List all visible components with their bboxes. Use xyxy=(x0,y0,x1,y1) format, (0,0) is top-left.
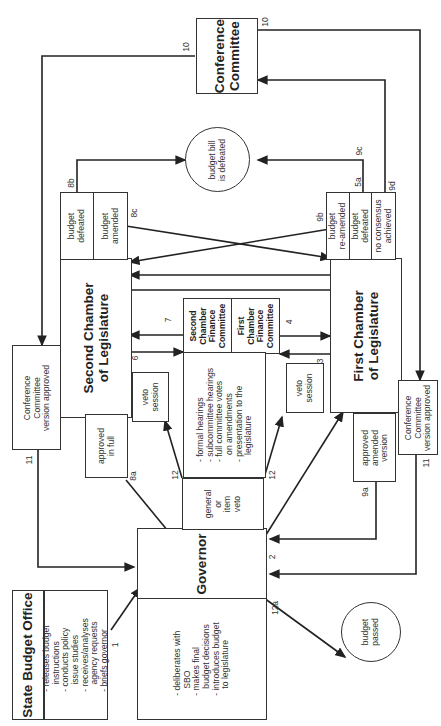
bill-defeated-circle: budget bill is defeated xyxy=(185,127,250,192)
first-budget-reamended-box: budget re-amended xyxy=(326,192,350,260)
state-budget-office-tasks-box: - releases budget instructions - conduct… xyxy=(44,590,108,720)
state-budget-office-title: State Budget Office xyxy=(20,592,35,717)
edge-label-4: 4 xyxy=(284,320,294,325)
second-budget-amended-box: budget amended xyxy=(93,192,128,260)
edge-label-2: 2 xyxy=(267,555,277,560)
first-conference-approved-label: Conference Committee version approved xyxy=(404,385,433,451)
conference-committee-box: Conference Committee xyxy=(196,18,258,94)
governor-tasks: - deliberates with SBO - makes final bud… xyxy=(173,622,231,696)
edge-label-5a: 5a xyxy=(353,177,363,186)
second-finance-committee-box: Second Chamber Finance Committee xyxy=(183,298,232,354)
first-chamber-box: First Chamber of Legislature xyxy=(330,258,402,413)
first-no-consensus-box: no consensus achieved xyxy=(371,192,396,260)
edge-label-9c: 9c xyxy=(354,147,364,156)
second-conference-approved-box: Conference Committee version approved xyxy=(12,345,61,450)
budget-passed-label: budget passed xyxy=(361,618,380,646)
edge-label-1: 1 xyxy=(110,643,120,648)
first-no-consensus-label: no consensus achieved xyxy=(374,199,393,252)
approved-amended-label: approved amended version xyxy=(360,430,389,466)
edge-label-11-first: 11 xyxy=(421,459,431,468)
veto-type-box: general or item veto xyxy=(182,478,264,530)
first-budget-defeated-box: budget defeated xyxy=(349,192,372,260)
governor-title-box: Governor xyxy=(137,528,267,600)
approved-amended-box: approved amended version xyxy=(353,413,396,482)
first-budget-defeated-label: budget defeated xyxy=(351,209,370,242)
edge-label-9a: 9a xyxy=(360,487,370,496)
approved-in-full-box: approved in full xyxy=(85,414,128,478)
committee-tasks-label: - formal hearings - subcommittee hearing… xyxy=(196,368,254,462)
first-veto-session-label: veto session xyxy=(295,373,314,402)
first-budget-reamended-label: budget re-amended xyxy=(328,203,347,249)
edge-label-10-second: 10 xyxy=(181,42,191,51)
edge-label-3: 3 xyxy=(315,359,325,364)
edge-label-6: 6 xyxy=(130,356,140,361)
second-veto-session-label: veto session xyxy=(141,382,160,411)
budget-passed-circle: budget passed xyxy=(341,602,401,662)
governor-tasks-box: - deliberates with SBO - makes final bud… xyxy=(137,598,267,720)
edge-label-12-first: 12 xyxy=(267,470,277,479)
committee-tasks-box: - formal hearings - subcommittee hearing… xyxy=(183,352,266,478)
edge-label-10-first: 10 xyxy=(260,17,270,26)
first-chamber-title: First Chamber of Legislature xyxy=(351,290,381,382)
second-conference-approved-label: Conference Committee version approved xyxy=(22,365,51,431)
state-budget-office-tasks: - releases budget instructions - conduct… xyxy=(42,618,109,692)
first-veto-session-box: veto session xyxy=(286,363,324,413)
edge-label-12-second: 12 xyxy=(170,470,180,479)
edge-label-8a: 8a xyxy=(128,471,138,480)
second-finance-committee-label: Second Chamber Finance Committee xyxy=(188,304,227,348)
conference-committee-title: Conference Committee xyxy=(212,19,242,93)
budget-process-diagram: State Budget Office - releases budget in… xyxy=(0,0,441,726)
second-budget-amended-label: budget amended xyxy=(101,208,120,244)
edge-label-11-second: 11 xyxy=(24,456,34,465)
second-chamber-title: Second Chamber of Legislature xyxy=(81,282,111,393)
edge-label-7: 7 xyxy=(163,318,173,323)
state-budget-office-title-box: State Budget Office xyxy=(12,590,44,720)
second-veto-session-box: veto session xyxy=(132,372,169,422)
second-chamber-box: Second Chamber of Legislature xyxy=(60,258,132,418)
first-finance-committee-label: First Chamber Finance Committee xyxy=(236,304,275,348)
edge-label-9b: 9b xyxy=(315,212,325,221)
veto-type-label: general or item veto xyxy=(204,490,243,519)
edge-label-8b: 8b xyxy=(66,178,76,187)
edge-label-8c: 8c xyxy=(129,209,139,218)
approved-in-full-label: approved in full xyxy=(97,428,116,464)
bill-defeated-label: budget bill is defeated xyxy=(208,138,227,180)
first-conference-approved-box: Conference Committee version approved xyxy=(398,380,438,455)
edge-label-9d: 9d xyxy=(387,181,397,190)
second-budget-defeated-box: budget defeated xyxy=(60,192,94,260)
edge-label-12a: 12a xyxy=(270,601,280,615)
governor-title: Governor xyxy=(194,534,209,595)
second-budget-defeated-label: budget defeated xyxy=(67,209,86,242)
first-finance-committee-box: First Chamber Finance Committee xyxy=(231,298,280,354)
